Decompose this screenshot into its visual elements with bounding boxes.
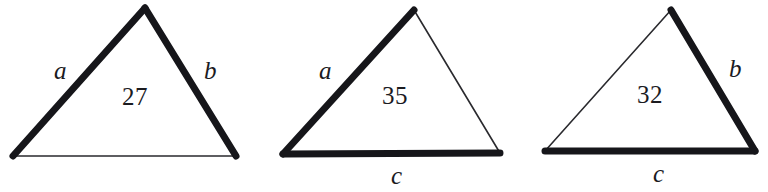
triangle-2-side-c-bold: [283, 153, 500, 154]
triangle-1-label-b: b: [204, 58, 217, 83]
triangle-2-label-c: c: [391, 163, 402, 188]
triangle-1-value: 27: [122, 84, 148, 109]
triangle-3-value: 32: [637, 82, 663, 107]
triangle-3-label-c: c: [653, 161, 664, 186]
triangle-1-label-a: a: [54, 58, 67, 83]
triangle-1: [13, 8, 236, 156]
triangle-2-value: 35: [382, 83, 408, 108]
triangle-3-label-b: b: [729, 56, 742, 81]
triangle-2-label-a: a: [319, 58, 332, 83]
triangles-figure: a b 27 a c 35 b c 32: [0, 0, 768, 192]
